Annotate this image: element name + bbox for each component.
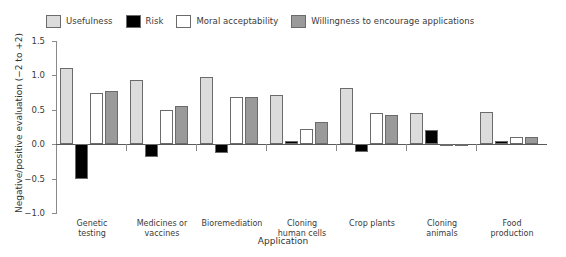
y-axis-tick: −1.0	[52, 213, 57, 214]
y-axis-tick: 1.0	[52, 75, 57, 76]
bar-6-0	[480, 112, 494, 144]
bar-0-2	[90, 93, 104, 144]
bar-6-1	[495, 141, 509, 144]
x-axis-group-tick	[196, 144, 197, 151]
bar-5-3	[455, 144, 469, 146]
x-axis-group-tick	[336, 144, 337, 151]
y-axis-tick-label: 0.0	[31, 139, 45, 149]
legend-item-2[interactable]: Moral acceptability	[176, 15, 278, 28]
bar-1-0	[130, 80, 144, 144]
bar-0-1	[75, 144, 89, 178]
bar-0-3	[105, 91, 119, 145]
y-axis-tick-label: −0.5	[24, 174, 45, 184]
legend-item-3[interactable]: Willingness to encourage applications	[291, 15, 474, 28]
y-axis-tick: 0.5	[52, 110, 57, 111]
chart-legend: UsefulnessRiskMoral acceptabilityWilling…	[46, 13, 487, 29]
bar-3-3	[315, 122, 329, 144]
bar-3-0	[270, 95, 284, 145]
y-axis-tick: 1.5	[52, 41, 57, 42]
bar-chart: UsefulnessRiskMoral acceptabilityWilling…	[0, 0, 566, 257]
bar-3-2	[300, 129, 314, 144]
y-axis-tick: −0.5	[52, 179, 57, 180]
bar-1-1	[145, 144, 159, 157]
bar-5-1	[425, 130, 439, 144]
x-axis-category-label: Food production	[477, 219, 547, 239]
x-axis-group-tick	[126, 144, 127, 151]
legend-label: Willingness to encourage applications	[311, 16, 474, 26]
y-axis-tick-label: 1.5	[31, 36, 45, 46]
y-axis-tick-label: 1.0	[31, 70, 45, 80]
x-axis-group-tick	[266, 144, 267, 151]
bar-5-2	[440, 144, 454, 146]
legend-label: Usefulness	[66, 16, 113, 26]
bar-1-2	[160, 110, 174, 144]
bar-4-0	[340, 88, 354, 144]
bar-2-3	[245, 97, 259, 144]
legend-swatch-icon	[46, 15, 61, 28]
x-axis-category-label: Genetic testing	[57, 219, 127, 239]
x-axis-category-label: Bioremediation	[197, 219, 267, 229]
bar-5-0	[410, 113, 424, 144]
legend-item-1[interactable]: Risk	[126, 15, 164, 28]
plot-area: 1.51.00.50.0−0.5−1.0Genetic testingMedic…	[57, 41, 547, 213]
legend-swatch-icon	[176, 15, 191, 28]
bar-6-3	[525, 137, 539, 145]
bar-2-2	[230, 97, 244, 144]
x-axis-group-tick	[476, 144, 477, 151]
x-axis-category-label: Crop plants	[337, 219, 407, 229]
bar-0-0	[60, 68, 74, 144]
x-axis-category-label: Cloning human cells	[267, 219, 337, 239]
x-axis-category-label: Medicines or vaccines	[127, 219, 197, 239]
legend-label: Risk	[146, 16, 164, 26]
bar-4-2	[370, 113, 384, 144]
bar-2-1	[215, 144, 229, 153]
legend-swatch-icon	[291, 15, 306, 28]
bar-3-1	[285, 141, 299, 144]
bar-2-0	[200, 77, 214, 144]
legend-label: Moral acceptability	[196, 16, 278, 26]
bar-4-1	[355, 144, 369, 152]
y-axis-tick-label: −1.0	[24, 208, 45, 218]
legend-item-0[interactable]: Usefulness	[46, 15, 113, 28]
x-axis-category-label: Cloning animals	[407, 219, 477, 239]
x-axis-group-tick	[406, 144, 407, 151]
bar-4-3	[385, 115, 399, 145]
y-axis-title: Negative/positive evaluation (−2 to +2)	[14, 18, 24, 228]
y-axis-tick-label: 0.5	[31, 105, 45, 115]
bar-6-2	[510, 137, 524, 144]
zero-baseline	[56, 144, 547, 145]
bar-1-3	[175, 106, 189, 144]
y-axis-line	[56, 41, 57, 213]
legend-swatch-icon	[126, 15, 141, 28]
